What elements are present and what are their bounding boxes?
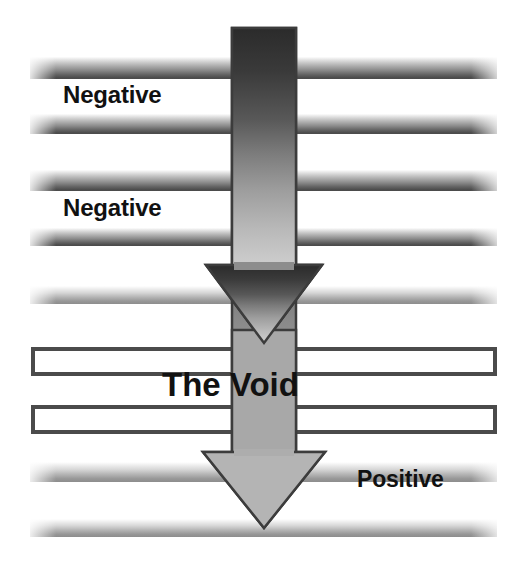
- arrow-seam-mask-upper: [234, 262, 294, 270]
- arrow-seam-mask-lower: [234, 449, 294, 456]
- diagram-canvas: Negative Negative The Void Positive: [0, 0, 525, 567]
- bar-9: [30, 519, 497, 537]
- bar-7-hollow: [31, 405, 497, 434]
- label-positive: Positive: [357, 466, 444, 493]
- bar-5: [30, 286, 497, 304]
- arrow-head-upper: [206, 265, 322, 343]
- bar-3: [30, 170, 497, 191]
- label-negative-upper: Negative: [63, 81, 161, 109]
- arrow-head-upper-overlay: [206, 265, 322, 343]
- bar-4: [30, 228, 497, 246]
- bar-2: [30, 114, 497, 134]
- bar-1: [30, 57, 497, 79]
- label-negative-lower: Negative: [63, 194, 161, 222]
- arrow-shape: [203, 28, 325, 528]
- label-the-void: The Void: [162, 366, 299, 404]
